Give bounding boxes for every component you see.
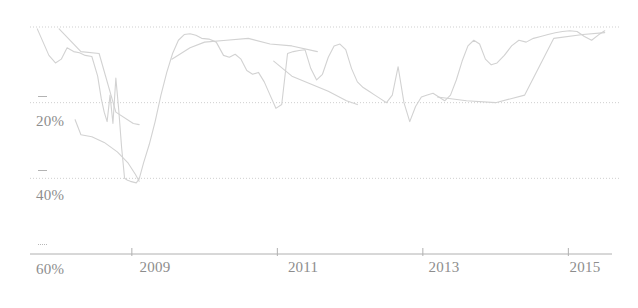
y-tick-dash-1: [38, 170, 47, 171]
y-tick-label-20: 20%: [36, 113, 64, 130]
y-tick-dash-0: [38, 96, 47, 97]
y-tick-label-60: 60%: [36, 261, 64, 278]
series-line-overlay-mid-rise: [172, 38, 317, 59]
series-line-overlay-upper-left: [59, 29, 139, 125]
series-line-overlay-low-arc: [75, 120, 139, 182]
series-group: [37, 29, 604, 183]
x-tick-label-2015: 2015: [550, 259, 620, 276]
series-line-drawdown: [37, 29, 604, 183]
gridlines-group: [30, 27, 620, 254]
y-tick-label-40: 40%: [36, 187, 64, 204]
y-tick-dash-2: [38, 244, 47, 245]
series-line-overlay-right-plateau: [437, 33, 604, 103]
x-tick-label-2013: 2013: [409, 259, 479, 276]
chart-container: 20% 40% 60% 2009 2011 2013 2015: [0, 0, 638, 308]
x-tick-marks-group: [132, 248, 568, 256]
x-tick-label-2011: 2011: [268, 259, 338, 276]
x-tick-label-2009: 2009: [120, 259, 190, 276]
